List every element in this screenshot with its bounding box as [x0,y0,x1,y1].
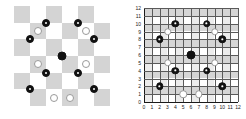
checker-cell [62,89,78,106]
checker-cell [30,6,46,23]
checker-cell [46,89,62,106]
checker-cell [62,39,78,56]
figure-container: 0123456789101112 0123456789101112 [0,0,246,119]
checker-cell [94,39,110,56]
checker-cell [46,23,62,40]
checker-cell [94,89,110,106]
checker-cell [14,56,30,73]
checker-cell [30,89,46,106]
checker-cell [30,73,46,90]
checker-cell [78,89,94,106]
checker-cell [94,56,110,73]
y-tick-label: 9 [131,29,141,35]
checker-cell [94,73,110,90]
checker-cell [14,6,30,23]
gridline-horizontal [144,79,238,80]
gridline-horizontal [144,71,238,72]
coordinate-grid-panel: 0123456789101112 0123456789101112 [130,6,242,114]
y-tick-label: 6 [131,52,141,58]
y-tick-label: 8 [131,36,141,42]
gridline-horizontal [144,63,238,64]
checker-cell [46,6,62,23]
checker-cell [62,23,78,40]
checker-cell [62,56,78,73]
gridline-horizontal [144,55,238,56]
checker-cell [78,6,94,23]
checker-cell [30,56,46,73]
gridline-horizontal [144,16,238,17]
checkerboard-panel [14,6,110,106]
y-tick-label: 4 [131,68,141,74]
checker-cell [30,23,46,40]
plot-area [144,8,238,102]
gridline-horizontal [144,86,238,87]
gridline-horizontal [144,102,238,103]
checker-cell [14,23,30,40]
y-tick-label: 3 [131,76,141,82]
checker-cell [14,73,30,90]
y-tick-label: 1 [131,91,141,97]
checker-cell [78,23,94,40]
checker-cell [46,56,62,73]
y-tick-label: 5 [131,60,141,66]
checker-cell [78,56,94,73]
y-tick-label: 10 [131,21,141,27]
gridline-horizontal [144,94,238,95]
gridline-horizontal [144,8,238,9]
y-tick-label: 12 [131,5,141,11]
checker-cell [78,73,94,90]
x-tick-label: 12 [233,104,243,110]
checker-cell [94,6,110,23]
y-tick-label: 2 [131,83,141,89]
checker-cell [62,73,78,90]
checker-cell [30,39,46,56]
checker-cell [14,39,30,56]
checker-cell [94,23,110,40]
checkerboard-grid [14,6,110,106]
gridline-vertical [238,8,239,102]
gridline-horizontal [144,24,238,25]
checker-cell [46,73,62,90]
checker-cell [62,6,78,23]
y-tick-label: 11 [131,13,141,19]
y-tick-label: 7 [131,44,141,50]
gridline-horizontal [144,39,238,40]
gridline-horizontal [144,47,238,48]
checker-cell [46,39,62,56]
checker-cell [78,39,94,56]
y-tick-label: 0 [131,99,141,105]
gridline-horizontal [144,32,238,33]
checker-cell [14,89,30,106]
